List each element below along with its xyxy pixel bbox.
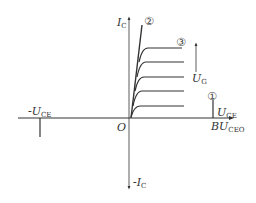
x-pos-label: UCE — [217, 106, 237, 120]
marker-3: ③ — [176, 36, 186, 49]
x-neg-label: -UCE — [28, 105, 51, 119]
curve-2-line — [131, 25, 142, 118]
marker-2: ② — [144, 15, 154, 28]
iv-diagram: ① ② ③ IC -IC UCE -UCE O BUCEO UG — [0, 0, 256, 203]
output-curves — [131, 48, 184, 117]
gate-label: UG — [192, 72, 207, 86]
breakdown-label: BUCEO — [210, 120, 245, 134]
origin-label: O — [117, 121, 126, 134]
marker-1: ① — [207, 90, 217, 103]
y-pos-label: IC — [116, 16, 127, 30]
y-neg-label: -IC — [133, 176, 146, 190]
